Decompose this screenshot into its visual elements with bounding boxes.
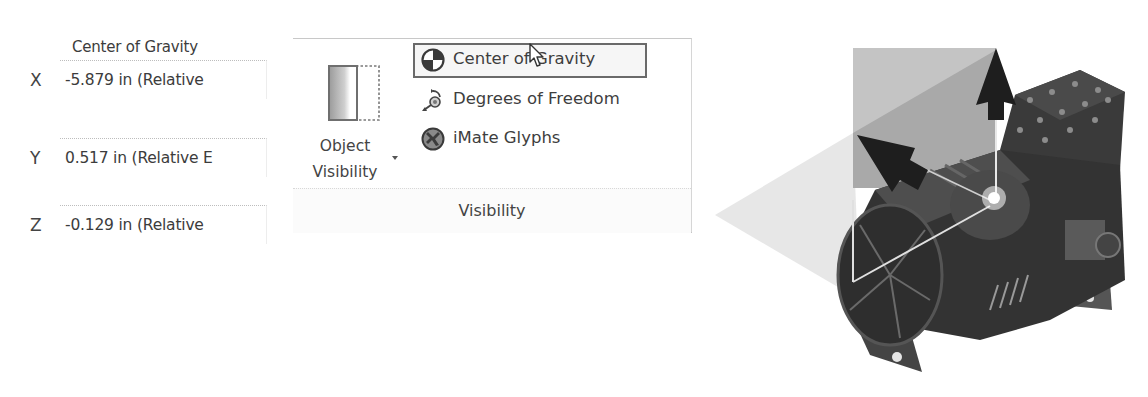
cog-x-value: -5.879 in (Relative xyxy=(65,71,204,89)
object-visibility-label-line2: Visibility xyxy=(295,159,395,185)
object-visibility-label-line1: Object xyxy=(295,133,395,159)
3d-model-viewport[interactable] xyxy=(700,20,1148,397)
imate-glyphs-icon xyxy=(421,127,445,151)
cog-x-row: X -5.879 in (Relative xyxy=(0,60,280,100)
cog-z-row: Z -0.129 in (Relative xyxy=(0,205,280,245)
center-of-gravity-properties: Center of Gravity X -5.879 in (Relative … xyxy=(0,0,280,260)
mouse-cursor-icon xyxy=(529,43,547,69)
center-of-gravity-icon xyxy=(421,48,445,72)
imate-glyphs-button[interactable]: iMate Glyphs xyxy=(413,123,678,155)
chevron-down-icon[interactable] xyxy=(392,156,398,160)
object-visibility-label: Object Visibility xyxy=(295,133,395,185)
axis-label-y: Y xyxy=(30,148,40,168)
object-visibility-icon xyxy=(328,65,380,121)
visibility-ribbon-panel: Object Visibility Center of Gravity Degr… xyxy=(293,38,692,233)
properties-title: Center of Gravity xyxy=(72,38,198,56)
cog-x-field[interactable]: -5.879 in (Relative xyxy=(60,60,267,99)
cog-y-value: 0.517 in (Relative E xyxy=(65,149,213,167)
cog-z-field[interactable]: -0.129 in (Relative xyxy=(60,205,267,244)
center-of-gravity-label: Center of Gravity xyxy=(453,49,595,68)
cog-y-row: Y 0.517 in (Relative E xyxy=(0,138,280,178)
cog-z-value: -0.129 in (Relative xyxy=(65,216,204,234)
axis-label-z: Z xyxy=(30,215,42,235)
axis-label-x: X xyxy=(30,70,42,90)
ribbon-group-label: Visibility xyxy=(293,201,691,220)
ribbon-group-footer: Visibility xyxy=(293,188,691,233)
degrees-of-freedom-label: Degrees of Freedom xyxy=(453,89,620,108)
degrees-of-freedom-button[interactable]: Degrees of Freedom xyxy=(413,84,678,116)
cog-y-field[interactable]: 0.517 in (Relative E xyxy=(60,138,267,177)
degrees-of-freedom-icon xyxy=(421,88,445,112)
imate-glyphs-label: iMate Glyphs xyxy=(453,128,560,147)
object-visibility-button[interactable]: Object Visibility xyxy=(295,49,395,189)
